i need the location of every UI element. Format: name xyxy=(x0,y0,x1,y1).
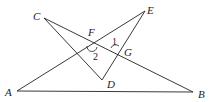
point-label-F: F xyxy=(87,26,95,38)
segment-AB xyxy=(17,91,193,92)
point-label-A: A xyxy=(4,86,12,98)
point-label-G: G xyxy=(124,46,132,58)
angle-label-1: 1 xyxy=(112,36,117,47)
point-label-B: B xyxy=(198,88,205,100)
segment-CB xyxy=(44,18,193,92)
geometry-diagram: ABCDEFG12 xyxy=(0,0,216,102)
point-label-D: D xyxy=(106,78,115,90)
angle-label-2: 2 xyxy=(93,51,98,62)
diagram-svg: ABCDEFG12 xyxy=(0,0,216,102)
point-label-E: E xyxy=(146,4,154,16)
point-label-C: C xyxy=(33,10,41,22)
